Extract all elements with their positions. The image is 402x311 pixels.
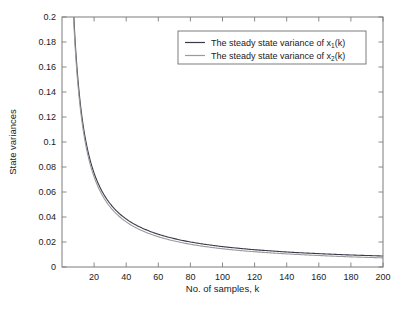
y-tick-label: 0.1	[43, 137, 56, 147]
x-tick-label: 100	[215, 272, 230, 282]
y-tick-label: 0.02	[38, 237, 56, 247]
y-tick-label: 0.14	[38, 87, 56, 97]
x-tick-label: 160	[311, 272, 326, 282]
x-tick-label: 140	[279, 272, 294, 282]
y-tick-label: 0.06	[38, 187, 56, 197]
y-tick-label: 0.2	[43, 12, 56, 22]
x-tick-label: 180	[343, 272, 358, 282]
legend[interactable]: The steady state variance of x1(k) The s…	[178, 31, 366, 64]
y-tick-label: 0.12	[38, 112, 56, 122]
x-tick-label: 20	[89, 272, 99, 282]
figure-canvas: 20406080100120140160180200 00.020.040.06…	[0, 0, 402, 311]
chart-plot: 20406080100120140160180200 00.020.040.06…	[0, 0, 402, 311]
y-tick-label: 0	[51, 262, 56, 272]
legend-label-x2: The steady state variance of x2(k)	[211, 51, 345, 62]
x-tick-label: 120	[247, 272, 262, 282]
y-tick-label: 0.04	[38, 212, 56, 222]
y-axis-title: State variances	[7, 109, 18, 175]
x-tick-label: 60	[153, 272, 163, 282]
y-tick-label: 0.08	[38, 162, 56, 172]
x-tick-label: 80	[185, 272, 195, 282]
x-tick-label: 40	[121, 272, 131, 282]
x-tick-label: 200	[375, 272, 390, 282]
y-tick-label: 0.18	[38, 37, 56, 47]
x-axis-title: No. of samples, k	[186, 283, 260, 294]
legend-label-x1: The steady state variance of x1(k)	[211, 38, 345, 49]
y-tick-label: 0.16	[38, 62, 56, 72]
